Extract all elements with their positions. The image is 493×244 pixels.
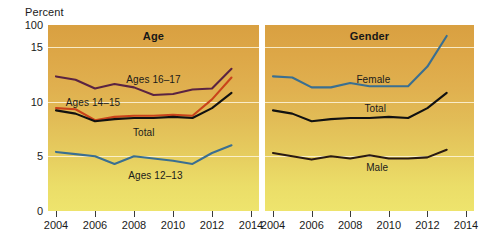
x-tick-mark [251, 211, 252, 217]
y-tick-label: 0 [37, 205, 43, 217]
x-tick-label: 2008 [122, 219, 146, 231]
plot-area: Age Gender Ages 16–17Ages 14–15TotalAges… [48, 25, 474, 211]
x-tick-label: 2010 [377, 219, 401, 231]
x-tick-mark [212, 211, 213, 217]
y-tick-label: 100 [25, 19, 43, 31]
series-label: Ages 14–15 [66, 96, 120, 107]
chart-figure: Percent 100151050 Age Gender Ages 16–17A… [0, 0, 493, 244]
x-tick-mark [95, 211, 96, 217]
x-tick-label: 2008 [338, 219, 362, 231]
x-tick-mark [427, 211, 428, 217]
x-tick-label: 2004 [44, 219, 68, 231]
x-tick-mark [173, 211, 174, 217]
series-label: Male [366, 162, 388, 173]
x-tick-label: 2014 [454, 219, 478, 231]
x-tick-label: 2014 [239, 219, 263, 231]
x-tick-mark [273, 211, 274, 217]
y-tick-label: 10 [31, 96, 43, 108]
x-tick-label: 2006 [83, 219, 107, 231]
x-tick-mark [350, 211, 351, 217]
series-line [56, 145, 232, 164]
x-tick-mark [389, 211, 390, 217]
series-label: Female [356, 73, 390, 84]
x-tick-label: 2010 [161, 219, 185, 231]
series-label: Ages 16–17 [126, 73, 180, 84]
series-line [273, 93, 447, 121]
series-label: Total [133, 127, 155, 138]
series-line [273, 150, 447, 160]
y-axis-title: Percent [25, 6, 64, 18]
x-tick-label: 2006 [299, 219, 323, 231]
x-tick-label: 2012 [200, 219, 224, 231]
x-tick-mark [466, 211, 467, 217]
x-tick-label: 2012 [415, 219, 439, 231]
y-axis-ticks: 100151050 [0, 25, 43, 211]
series-label: Total [364, 103, 386, 114]
x-tick-label: 2004 [261, 219, 285, 231]
x-tick-mark [134, 211, 135, 217]
series-label: Ages 12–13 [128, 169, 182, 180]
x-tick-mark [312, 211, 313, 217]
x-tick-mark [56, 211, 57, 217]
series-lines [48, 25, 474, 211]
y-tick-label: 5 [37, 150, 43, 162]
x-axis: 2004200620082010201220142004200620082010… [48, 211, 474, 244]
y-tick-label: 15 [31, 41, 43, 53]
